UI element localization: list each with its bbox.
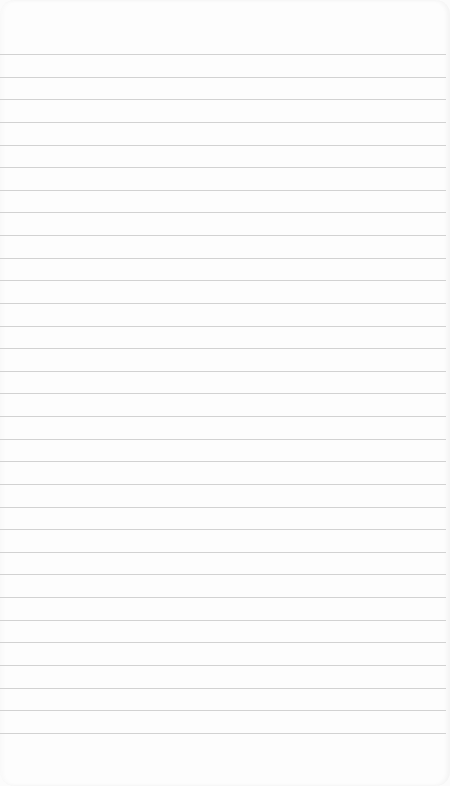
ruled-line [0,484,446,485]
ruled-line [0,303,446,304]
ruled-line [0,688,446,689]
ruled-line [0,280,446,281]
ruled-line [0,665,446,666]
ruled-line [0,190,446,191]
ruled-line [0,620,446,621]
ruled-line [0,733,446,734]
ruled-line [0,54,446,55]
ruled-line [0,529,446,530]
ruled-line [0,235,446,236]
ruled-line [0,348,446,349]
ruled-line [0,416,446,417]
ruled-line [0,145,446,146]
ruled-line [0,439,446,440]
ruled-line [0,710,446,711]
ruled-line [0,258,446,259]
ruled-line [0,122,446,123]
ruled-line [0,597,446,598]
ruled-line [0,77,446,78]
ruled-line [0,99,446,100]
ruled-line [0,461,446,462]
ruled-line [0,326,446,327]
ruled-line [0,552,446,553]
ruled-line [0,167,446,168]
ruled-line [0,574,446,575]
ruled-line [0,642,446,643]
notepad-page[interactable] [0,0,450,786]
ruled-line [0,507,446,508]
ruled-line [0,393,446,394]
ruled-line [0,212,446,213]
ruled-line [0,371,446,372]
